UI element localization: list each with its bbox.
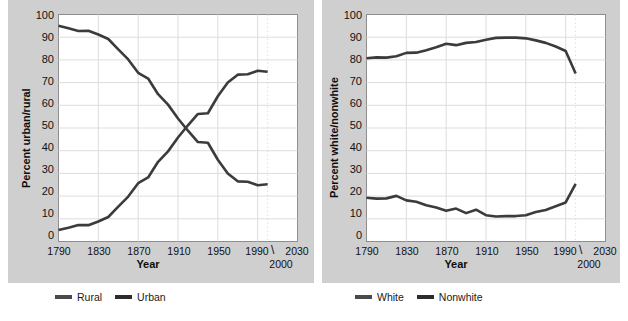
y-tick-right-60: 60 bbox=[336, 97, 362, 109]
legend-label-rural: Rural bbox=[77, 292, 102, 303]
legend-white-nonwhite: White Nonwhite bbox=[355, 290, 483, 304]
y-tick-left-60: 60 bbox=[28, 97, 54, 109]
legend-swatch-nonwhite bbox=[417, 295, 434, 299]
figure-container: Percent urban/rural 100 90 80 70 60 50 4… bbox=[0, 0, 628, 321]
legend-entry-rural[interactable]: Rural bbox=[55, 292, 102, 303]
plot-area-white-nonwhite bbox=[366, 14, 606, 242]
y-tick-right-40: 40 bbox=[336, 141, 362, 153]
y-tick-left-40: 40 bbox=[28, 141, 54, 153]
y-tick-right-90: 90 bbox=[336, 31, 362, 43]
legend-label-white: White bbox=[377, 292, 404, 303]
y-tick-right-70: 70 bbox=[336, 75, 362, 87]
y-tick-right-20: 20 bbox=[336, 185, 362, 197]
y-tick-right-30: 30 bbox=[336, 163, 362, 175]
legend-label-nonwhite: Nonwhite bbox=[439, 292, 483, 303]
y-tick-left-100: 100 bbox=[28, 9, 54, 21]
y-tick-left-70: 70 bbox=[28, 75, 54, 87]
legend-label-urban: Urban bbox=[137, 292, 166, 303]
x-tick-right-1870: 1870 bbox=[427, 245, 467, 257]
x-tick-right-1910: 1910 bbox=[467, 245, 507, 257]
x-tick-left-1830: 1830 bbox=[79, 245, 119, 257]
x-tick-left-1790: 1790 bbox=[39, 245, 79, 257]
x-axis-label-left: Year bbox=[118, 258, 178, 270]
panel-inner-left: Percent urban/rural 100 90 80 70 60 50 4… bbox=[8, 0, 314, 283]
chart-panel-urban-rural: Percent urban/rural 100 90 80 70 60 50 4… bbox=[8, 0, 314, 283]
y-tick-left-90: 90 bbox=[28, 31, 54, 43]
x-tick-right-1950: 1950 bbox=[507, 245, 547, 257]
y-tick-left-80: 80 bbox=[28, 53, 54, 65]
legend-entry-nonwhite[interactable]: Nonwhite bbox=[417, 292, 483, 303]
x-tick-left-1910: 1910 bbox=[159, 245, 199, 257]
x-tick-left-2000: 2000 bbox=[261, 258, 301, 270]
y-tick-left-20: 20 bbox=[28, 185, 54, 197]
y-tick-right-50: 50 bbox=[336, 119, 362, 131]
y-tick-right-80: 80 bbox=[336, 53, 362, 65]
x-tick-left-2030: 2030 bbox=[277, 245, 317, 257]
x-tick-left-1870: 1870 bbox=[119, 245, 159, 257]
y-tick-left-30: 30 bbox=[28, 163, 54, 175]
legend-swatch-white bbox=[355, 295, 372, 299]
y-tick-left-10: 10 bbox=[28, 207, 54, 219]
legend-swatch-urban bbox=[115, 295, 132, 299]
x-tick-left-2000-pointer: \ bbox=[271, 243, 274, 257]
y-tick-left-0: 0 bbox=[28, 229, 54, 241]
y-tick-right-100: 100 bbox=[336, 9, 362, 21]
x-axis-label-right: Year bbox=[426, 258, 486, 270]
x-tick-right-2000-pointer: \ bbox=[579, 243, 582, 257]
panel-inner-right: Percent white/nonwhite 100 90 80 70 60 5… bbox=[322, 0, 620, 283]
x-tick-right-1830: 1830 bbox=[387, 245, 427, 257]
legend-entry-white[interactable]: White bbox=[355, 292, 404, 303]
y-tick-right-0: 0 bbox=[336, 229, 362, 241]
plot-area-urban-rural bbox=[58, 14, 298, 242]
y-axis-label-right: Percent white/nonwhite bbox=[328, 77, 340, 198]
legend-swatch-rural bbox=[55, 295, 72, 299]
chart-panel-white-nonwhite: Percent white/nonwhite 100 90 80 70 60 5… bbox=[322, 0, 620, 283]
legend-entry-urban[interactable]: Urban bbox=[115, 292, 166, 303]
x-tick-right-2000: 2000 bbox=[569, 258, 609, 270]
x-tick-right-2030: 2030 bbox=[585, 245, 625, 257]
legend-urban-rural: Rural Urban bbox=[55, 290, 166, 304]
x-tick-left-1950: 1950 bbox=[199, 245, 239, 257]
x-tick-right-1790: 1790 bbox=[347, 245, 387, 257]
y-tick-right-10: 10 bbox=[336, 207, 362, 219]
y-tick-left-50: 50 bbox=[28, 119, 54, 131]
